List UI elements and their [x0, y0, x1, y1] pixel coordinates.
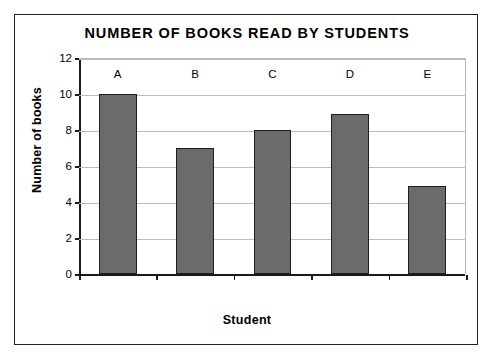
- bar-a[interactable]: [99, 94, 137, 274]
- y-tick-label: 10: [59, 88, 72, 100]
- x-tick-mark: [234, 275, 236, 280]
- gridline: [79, 95, 465, 96]
- y-tick-label: 8: [66, 124, 72, 136]
- x-axis-baseline: [79, 274, 465, 276]
- y-tick-label: 4: [66, 196, 72, 208]
- x-tick-label-e: E: [423, 68, 431, 80]
- y-tick-label: 0: [66, 268, 72, 280]
- x-tick-label-a: A: [114, 68, 122, 80]
- x-tick-mark: [79, 275, 81, 280]
- chart-figure-frame: NUMBER OF BOOKS READ BY STUDENTS Number …: [14, 14, 478, 345]
- x-tick-mark: [389, 275, 391, 280]
- bar-d[interactable]: [331, 114, 369, 274]
- x-tick-mark: [156, 275, 158, 280]
- y-axis-title: Number of books: [30, 70, 44, 210]
- y-tick-label: 6: [66, 160, 72, 172]
- bar-e[interactable]: [408, 186, 446, 274]
- x-tick-label-b: B: [191, 68, 199, 80]
- x-tick-mark: [466, 275, 468, 280]
- y-tick-label: 2: [66, 232, 72, 244]
- plot-area: ABCDE: [79, 58, 466, 274]
- x-axis-title: Student: [15, 313, 479, 327]
- x-tick-label-c: C: [268, 68, 276, 80]
- scan-edge-artifact: [0, 0, 493, 9]
- chart-title: NUMBER OF BOOKS READ BY STUDENTS: [15, 25, 479, 41]
- gridline: [79, 59, 465, 60]
- x-tick-label-d: D: [346, 68, 354, 80]
- x-tick-mark: [311, 275, 313, 280]
- bar-c[interactable]: [254, 130, 292, 274]
- bar-b[interactable]: [176, 148, 214, 274]
- y-tick-label: 12: [59, 52, 72, 64]
